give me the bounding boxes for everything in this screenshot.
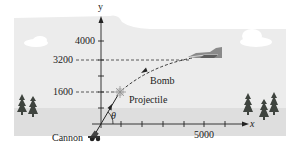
projectile-label: Projectile <box>129 95 167 105</box>
projectile-diagram: y x 4000 3200 1600 5000 Bomb Projectile … <box>0 0 300 153</box>
y-axis-label: y <box>98 2 103 12</box>
angle-label: θ <box>111 111 116 121</box>
y-tick-label-4000: 4000 <box>75 36 95 46</box>
y-tick-label-3200: 3200 <box>53 55 73 65</box>
y-tick-label-1600: 1600 <box>53 87 73 97</box>
cannon-label: Cannon <box>52 133 83 143</box>
x-axis-label: x <box>250 119 254 129</box>
bomb-label: Bomb <box>150 76 174 86</box>
x-tick-label-5000: 5000 <box>194 130 214 140</box>
